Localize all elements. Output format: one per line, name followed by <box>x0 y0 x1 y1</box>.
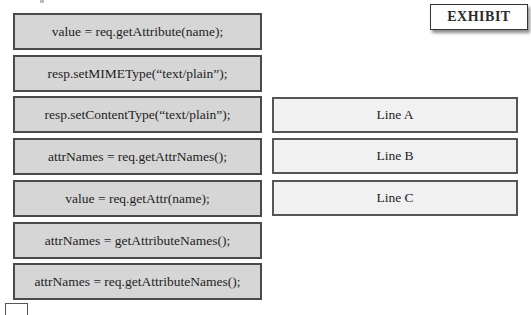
drag-item-label: resp.setContentType(“text/plain”); <box>44 107 230 123</box>
drag-item-label: value = req.getAttr(name); <box>65 191 209 207</box>
drag-item-get-attr[interactable]: value = req.getAttr(name); <box>13 180 262 217</box>
drag-item-label: attrNames = req.getAttributeNames(); <box>35 274 241 290</box>
drop-target-line-a[interactable]: Line A <box>272 97 518 133</box>
top-fragment-mark <box>40 0 44 3</box>
drag-item-label: resp.setMIMEType(“text/plain”); <box>47 66 227 82</box>
exhibit-button[interactable]: EXHIBIT <box>430 4 528 30</box>
drop-target-label: Line A <box>376 107 413 123</box>
drag-item-get-attribute[interactable]: value = req.getAttribute(name); <box>13 13 262 50</box>
drag-item-label: value = req.getAttribute(name); <box>52 24 223 40</box>
drag-item-set-content-type[interactable]: resp.setContentType(“text/plain”); <box>13 96 262 133</box>
drag-item-set-mime-type[interactable]: resp.setMIMEType(“text/plain”); <box>13 55 262 92</box>
drag-item-get-attribute-names-no-req[interactable]: attrNames = getAttributeNames(); <box>13 222 262 259</box>
drag-item-label: attrNames = getAttributeNames(); <box>45 233 230 249</box>
drop-target-line-c[interactable]: Line C <box>272 180 518 216</box>
drag-item-get-attr-names[interactable]: attrNames = req.getAttrNames(); <box>13 138 262 175</box>
drag-item-req-get-attribute-names[interactable]: attrNames = req.getAttributeNames(); <box>13 263 262 300</box>
drop-target-label: Line B <box>376 148 413 164</box>
partial-box-fragment <box>5 303 28 315</box>
drag-item-label: attrNames = req.getAttrNames(); <box>48 149 227 165</box>
drop-target-label: Line C <box>376 190 413 206</box>
drop-target-line-b[interactable]: Line B <box>272 138 518 174</box>
